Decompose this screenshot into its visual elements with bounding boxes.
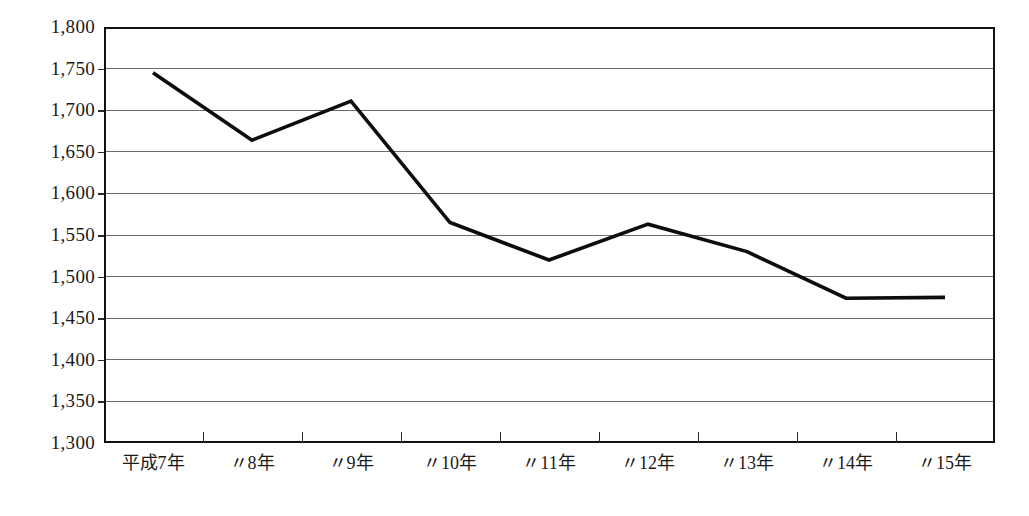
y-axis-tick-mark	[98, 193, 104, 195]
y-axis-tick-label: 1,550	[7, 225, 95, 244]
gridline	[106, 110, 993, 111]
x-axis-tick-label: 〃12年	[621, 452, 675, 474]
y-axis-tick-label: 1,500	[7, 267, 95, 286]
line-chart: 1,8001,7501,7001,6501,6001,5501,5001,450…	[0, 0, 1029, 516]
x-axis-tick-label: 〃14年	[819, 452, 873, 474]
gridline	[106, 318, 993, 319]
x-axis-tick-label: 平成7年	[122, 452, 185, 474]
x-axis-tick-mark	[797, 432, 799, 443]
y-axis: 1,8001,7501,7001,6501,6001,5501,5001,450…	[0, 0, 95, 516]
x-axis-tick-label: 〃13年	[720, 452, 774, 474]
plot-area	[104, 27, 995, 443]
gridline	[106, 235, 993, 236]
y-axis-tick-mark	[98, 401, 104, 403]
x-axis-tick-label: 〃15年	[918, 452, 972, 474]
x-axis-tick-mark	[698, 432, 700, 443]
y-axis-tick-mark	[98, 152, 104, 154]
x-axis-tick-mark	[599, 432, 601, 443]
gridline	[106, 151, 993, 152]
y-axis-tick-label: 1,400	[7, 350, 95, 369]
x-axis-tick-mark	[500, 432, 502, 443]
x-axis-tick-mark	[896, 432, 898, 443]
y-axis-tick-mark	[98, 360, 104, 362]
y-axis-tick-mark	[98, 235, 104, 237]
y-axis-tick-label: 1,650	[7, 142, 95, 161]
x-axis-tick-label: 〃9年	[329, 452, 374, 474]
y-axis-tick-label: 1,350	[7, 391, 95, 410]
y-axis-tick-label: 1,750	[7, 59, 95, 78]
y-axis-tick-label: 1,600	[7, 183, 95, 202]
x-axis-tick-mark	[302, 432, 304, 443]
y-axis-tick-label: 1,700	[7, 100, 95, 119]
y-axis-tick-label: 1,450	[7, 308, 95, 327]
y-axis-tick-label: 1,800	[7, 17, 95, 36]
gridline	[106, 193, 993, 194]
y-axis-tick-mark	[98, 69, 104, 71]
x-axis-tick-label: 〃8年	[230, 452, 275, 474]
gridline	[106, 401, 993, 402]
x-axis-tick-label: 〃10年	[423, 452, 477, 474]
y-axis-tick-mark	[98, 277, 104, 279]
y-axis-tick-label: 1,300	[7, 433, 95, 452]
x-axis-tick-mark	[401, 432, 403, 443]
gridline	[106, 359, 993, 360]
gridline	[106, 68, 993, 69]
x-axis-tick-label: 〃11年	[522, 452, 575, 474]
x-axis-tick-mark	[203, 432, 205, 443]
gridline	[106, 276, 993, 277]
x-axis: 平成7年〃8年〃9年〃10年〃11年〃12年〃13年〃14年〃15年	[0, 452, 1029, 486]
y-axis-tick-mark	[98, 110, 104, 112]
y-axis-tick-mark	[98, 318, 104, 320]
